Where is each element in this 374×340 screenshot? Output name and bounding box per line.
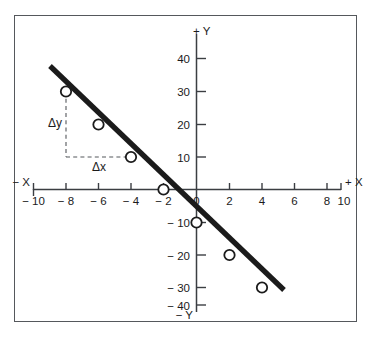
y-axis-positive-label: + Y <box>193 25 211 37</box>
axis-direction-labels: − X + X + Y − Y <box>12 25 363 321</box>
x-tick-label: − 8 <box>58 195 74 207</box>
y-tick-label: − 30 <box>167 282 190 294</box>
figure-container: − 10 − 8 − 6 − 4 − 2 0 2 4 6 8 10 40 30 … <box>0 0 374 340</box>
x-tick-label: 8 <box>324 195 330 207</box>
y-tick-label: 10 <box>177 152 190 164</box>
y-axis-ticks <box>196 59 206 306</box>
data-point <box>158 184 168 194</box>
x-tick-label: 4 <box>259 195 266 207</box>
delta-y-label: Δy <box>48 116 62 130</box>
data-point <box>93 119 103 129</box>
axis-group <box>33 34 341 312</box>
x-axis-positive-label: + X <box>345 176 363 188</box>
x-axis-negative-label: − X <box>12 176 30 188</box>
y-tick-label: − 20 <box>167 250 190 262</box>
x-tick-label: 10 <box>338 195 351 207</box>
data-point <box>257 282 267 292</box>
y-axis-negative-label: − Y <box>176 309 194 321</box>
graph-canvas: − 10 − 8 − 6 − 4 − 2 0 2 4 6 8 10 40 30 … <box>0 0 374 340</box>
x-tick-label: 2 <box>226 195 232 207</box>
y-tick-label: 40 <box>177 53 190 65</box>
delta-x-label: Δx <box>92 160 106 174</box>
data-point <box>191 217 201 227</box>
y-tick-label: − 10 <box>167 217 190 229</box>
data-point <box>61 86 71 96</box>
y-tick-label: 30 <box>177 86 190 98</box>
data-point <box>126 152 136 162</box>
data-point <box>224 250 234 260</box>
x-tick-label: − 2 <box>155 195 171 207</box>
x-tick-label: − 4 <box>123 195 140 207</box>
x-tick-label: − 6 <box>90 195 106 207</box>
x-tick-label: 6 <box>291 195 297 207</box>
x-tick-label: − 10 <box>22 195 45 207</box>
y-tick-label: 20 <box>177 119 190 131</box>
